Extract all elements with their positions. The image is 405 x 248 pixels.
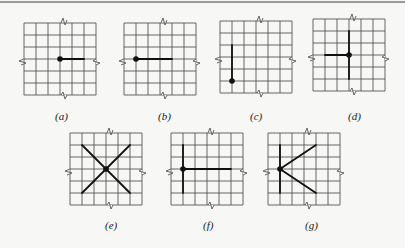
panel-label-b: (b) bbox=[158, 110, 171, 122]
grid-panel-a bbox=[24, 23, 114, 113]
break-mark-icon bbox=[93, 59, 100, 65]
top-rule bbox=[0, 1, 405, 3]
break-mark-icon bbox=[257, 16, 263, 23]
grid-panel-d bbox=[313, 19, 403, 109]
panel-label-g: (g) bbox=[305, 219, 318, 231]
break-mark-icon bbox=[289, 57, 296, 63]
grid-diagram bbox=[124, 23, 196, 95]
panel-label-a: (a) bbox=[55, 110, 68, 122]
break-mark-icon bbox=[350, 14, 356, 21]
break-mark-icon bbox=[240, 169, 247, 175]
break-mark-icon bbox=[208, 128, 214, 135]
break-mark-icon bbox=[263, 169, 270, 175]
break-mark-icon bbox=[139, 169, 146, 175]
grid-panel-g bbox=[268, 133, 358, 223]
panel-label-e: (e) bbox=[105, 219, 117, 231]
break-mark-icon bbox=[61, 18, 67, 25]
grid-diagram bbox=[171, 133, 243, 205]
grid-diagram bbox=[268, 133, 340, 205]
break-mark-icon bbox=[257, 90, 263, 97]
grid-panel-c bbox=[220, 21, 310, 111]
break-mark-icon bbox=[193, 59, 200, 65]
panel-label-f: (f) bbox=[203, 219, 213, 231]
break-mark-icon bbox=[61, 92, 67, 99]
grid-panel-f bbox=[171, 133, 261, 223]
break-mark-icon bbox=[19, 59, 26, 65]
break-mark-icon bbox=[215, 57, 222, 63]
break-mark-icon bbox=[107, 202, 113, 209]
break-mark-icon bbox=[107, 128, 113, 135]
point-dot-icon bbox=[277, 166, 283, 172]
point-dot-icon bbox=[133, 56, 139, 62]
panel-label-c: (c) bbox=[250, 110, 262, 122]
break-mark-icon bbox=[65, 169, 72, 175]
panel-label-d: (d) bbox=[348, 110, 361, 122]
break-mark-icon bbox=[119, 59, 126, 65]
break-mark-icon bbox=[161, 92, 167, 99]
grid-panel-b bbox=[124, 23, 214, 113]
point-dot-icon bbox=[229, 78, 235, 84]
point-dot-icon bbox=[180, 166, 186, 172]
break-mark-icon bbox=[305, 128, 311, 135]
point-dot-icon bbox=[57, 56, 63, 62]
break-mark-icon bbox=[337, 169, 344, 175]
grid-diagram bbox=[220, 21, 292, 93]
grid-diagram bbox=[313, 19, 385, 91]
break-mark-icon bbox=[166, 169, 173, 175]
point-dot-icon bbox=[103, 166, 109, 172]
point-dot-icon bbox=[346, 52, 352, 58]
grid-panel-e bbox=[70, 133, 160, 223]
break-mark-icon bbox=[161, 18, 167, 25]
break-mark-icon bbox=[305, 202, 311, 209]
break-mark-icon bbox=[208, 202, 214, 209]
grid-diagram bbox=[24, 23, 96, 95]
break-mark-icon bbox=[382, 55, 389, 61]
grid-diagram bbox=[70, 133, 142, 205]
break-mark-icon bbox=[350, 88, 356, 95]
